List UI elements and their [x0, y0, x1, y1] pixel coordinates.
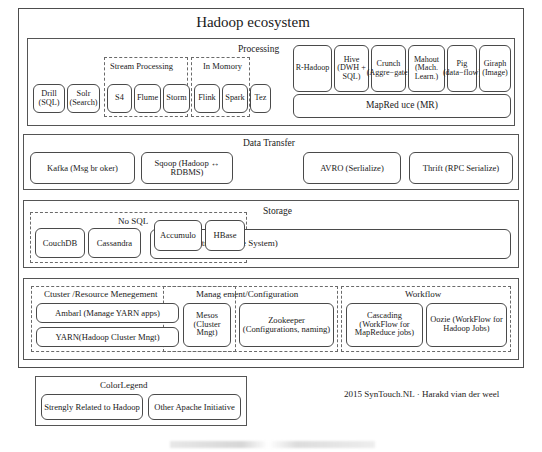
node-drill[interactable]: Drill (SQL): [33, 84, 65, 113]
node-s4[interactable]: S4: [107, 84, 132, 113]
node-hive[interactable]: Hive (DWH + SQL): [334, 45, 369, 92]
node-oozie[interactable]: Oozie (WorkFlow for Hadoop Jobs): [426, 303, 507, 347]
node-r-hadoop[interactable]: R-Hadoop: [293, 45, 332, 92]
node-pig[interactable]: Pig (data−flow): [447, 45, 477, 92]
node-kafka[interactable]: Kafka (Msg br oker): [30, 152, 135, 184]
node-tez[interactable]: Tez: [250, 84, 271, 113]
node-avro[interactable]: AVRO (Serlialize): [303, 152, 401, 184]
node-zookeeper[interactable]: Zookeeper (Configurations, naming): [239, 303, 334, 347]
stream-processing-group-label: Stream Processing: [110, 61, 173, 71]
workflow-group-label: Workflow: [405, 289, 441, 299]
node-crunch[interactable]: Crunch (Aggre−gate): [371, 45, 406, 92]
legend-item-strongly-related: Strengly Related to Hadoop: [41, 394, 143, 420]
legend-item-other-apache: Other Apache Initiative: [148, 394, 241, 420]
node-mesos[interactable]: Mesos (Cluster Mngt): [183, 303, 231, 347]
node-sqoop[interactable]: Sqoop (Hadoop ↔ RDBMS): [141, 152, 233, 184]
node-mahout[interactable]: Mahout (Mach. Learn.): [408, 45, 445, 92]
node-hbase[interactable]: HBase: [205, 220, 245, 251]
processing-band-title: Processing: [238, 44, 279, 54]
node-accumulo[interactable]: Accumulo: [154, 220, 202, 251]
node-storm[interactable]: Storm: [163, 84, 190, 113]
hadoop-ecosystem-diagram: Hadoop ecosystem Processing Stream Proce…: [0, 0, 542, 452]
node-flume[interactable]: Flume: [134, 84, 161, 113]
node-cassandra[interactable]: Cassandra: [88, 228, 141, 258]
page-title: Hadoop ecosystem: [0, 14, 506, 31]
node-giraph[interactable]: Giraph (Image): [479, 45, 511, 92]
storage-band-title: Storage: [263, 206, 292, 216]
management-configuration-group-label: Manag ement/Configuration: [196, 289, 298, 299]
node-spark[interactable]: Spark: [222, 84, 248, 113]
node-solr[interactable]: Solr (Search): [67, 84, 100, 113]
cropped-caption-remnant: [170, 441, 375, 448]
node-flink[interactable]: Flink: [194, 84, 220, 113]
color-legend-title: ColorLegend: [100, 380, 148, 390]
cluster-resource-group-label: Ctuster /Resource Menegement: [44, 289, 157, 299]
credit-line: 2015 SynTouch.NL · Harakd vian der weel: [344, 389, 499, 399]
node-couchdb[interactable]: CouchDB: [35, 228, 85, 258]
node-thrift[interactable]: Thrift (RPC Serialize): [409, 152, 513, 184]
node-mapreduce[interactable]: MapRed uce (MR): [293, 94, 511, 118]
node-yarn[interactable]: YARN(Hadoop Cluster Mngt): [36, 327, 179, 347]
data-transfer-band-title: Data Transfer: [243, 138, 295, 148]
node-cascading[interactable]: Cascading (WorkFlow for MapReduce jobs): [346, 303, 423, 347]
in-memory-group-label: In Momory: [203, 61, 242, 71]
nosql-group-label: No SQL: [118, 216, 148, 226]
node-ambari[interactable]: Ambarl (Manage YARN apps): [36, 303, 179, 323]
